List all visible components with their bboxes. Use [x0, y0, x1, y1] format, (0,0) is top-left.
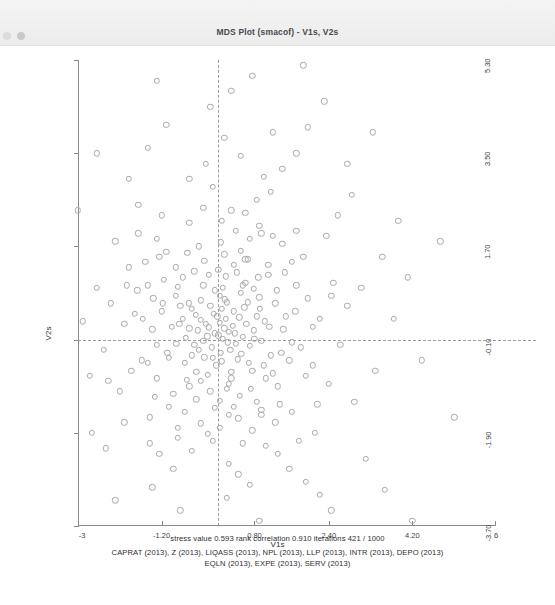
scatter-point: [300, 254, 306, 260]
scatter-point: [195, 327, 201, 333]
scatter-point: [240, 282, 246, 288]
scatter-point: [236, 392, 242, 398]
scatter-point: [175, 435, 181, 441]
scatter-point: [293, 228, 299, 234]
scatter-point: [379, 254, 385, 260]
scatter-point: [261, 362, 267, 368]
scatter-point: [255, 274, 261, 280]
scatter-point: [243, 321, 249, 327]
scatter-point: [103, 445, 109, 451]
scatter-point: [258, 230, 264, 236]
scatter-point: [220, 285, 226, 291]
y-tick: [74, 526, 79, 527]
scatter-point: [196, 243, 202, 249]
scatter-points-layer: [78, 60, 496, 526]
scatter-point: [219, 358, 225, 364]
scatter-point: [218, 349, 224, 355]
scatter-point: [237, 290, 243, 296]
scatter-point: [270, 370, 276, 376]
scatter-point: [231, 308, 237, 314]
scatter-point: [198, 378, 204, 384]
scatter-point: [197, 297, 203, 303]
scatter-point: [293, 282, 299, 288]
scatter-point: [258, 337, 264, 343]
scatter-point: [177, 507, 183, 513]
scatter-point: [250, 286, 256, 292]
scatter-point: [222, 316, 228, 322]
scatter-point: [226, 411, 232, 417]
scatter-point: [117, 388, 123, 394]
scatter-point: [142, 259, 148, 265]
scatter-point: [183, 334, 189, 340]
scatter-point: [124, 282, 130, 288]
scatter-point: [179, 274, 185, 280]
scatter-point: [254, 313, 260, 319]
scatter-point: [240, 440, 246, 446]
scatter-point: [226, 461, 232, 467]
scatter-point: [175, 284, 181, 290]
scatter-point: [161, 277, 167, 283]
scatter-point: [207, 103, 213, 109]
scatter-point: [288, 409, 294, 415]
scatter-point: [249, 72, 255, 78]
scatter-point: [191, 268, 197, 274]
scatter-point: [228, 207, 234, 213]
scatter-point: [154, 342, 160, 348]
scatter-point: [235, 415, 241, 421]
scatter-point: [112, 238, 118, 244]
scatter-point: [126, 264, 132, 270]
variables-line-1: CAPRAT (2013), Z (2013), LIQASS (2013), …: [0, 547, 555, 558]
scatter-point: [257, 305, 263, 311]
scatter-point: [274, 287, 280, 293]
scatter-point: [286, 357, 292, 363]
scatter-point: [405, 274, 411, 280]
scatter-point: [172, 264, 178, 270]
scatter-point: [314, 401, 320, 407]
scatter-point: [219, 217, 225, 223]
scatter-point: [165, 355, 171, 361]
scatter-point: [149, 484, 155, 490]
scatter-point: [205, 372, 211, 378]
scatter-point: [237, 247, 243, 253]
scatter-point: [150, 295, 156, 301]
scatter-point: [207, 303, 213, 309]
scatter-point: [135, 202, 141, 208]
scatter-point: [302, 373, 308, 379]
scatter-point: [236, 314, 242, 320]
scatter-point: [163, 248, 169, 254]
scatter-point: [121, 321, 127, 327]
scatter-point: [302, 479, 308, 485]
scatter-point: [147, 440, 153, 446]
scatter-point: [418, 357, 424, 363]
scatter-point: [309, 323, 315, 329]
scatter-point: [321, 98, 327, 104]
scatter-point: [409, 518, 415, 524]
scatter-point: [186, 383, 192, 389]
scatter-point: [214, 313, 220, 319]
scatter-point: [89, 430, 95, 436]
scatter-point: [316, 492, 322, 498]
scatter-point: [223, 386, 229, 392]
scatter-point: [391, 316, 397, 322]
scatter-point: [275, 450, 281, 456]
scatter-point: [213, 362, 219, 368]
scatter-point: [312, 430, 318, 436]
scatter-point: [131, 311, 137, 317]
scatter-point: [281, 269, 287, 275]
scatter-point: [200, 282, 206, 288]
scatter-point: [250, 327, 256, 333]
scatter-point: [105, 378, 111, 384]
scatter-point: [237, 153, 243, 159]
scatter-point: [261, 173, 267, 179]
scatter-point: [344, 160, 350, 166]
scatter-point: [247, 481, 253, 487]
scatter-point: [266, 323, 272, 329]
scatter-point: [305, 124, 311, 130]
scatter-point: [351, 399, 357, 405]
scatter-point: [335, 212, 341, 218]
scatter-point: [298, 344, 304, 350]
scatter-point: [270, 233, 276, 239]
scatter-point: [358, 285, 364, 291]
scatter-point: [240, 334, 246, 340]
scatter-point: [246, 360, 252, 366]
